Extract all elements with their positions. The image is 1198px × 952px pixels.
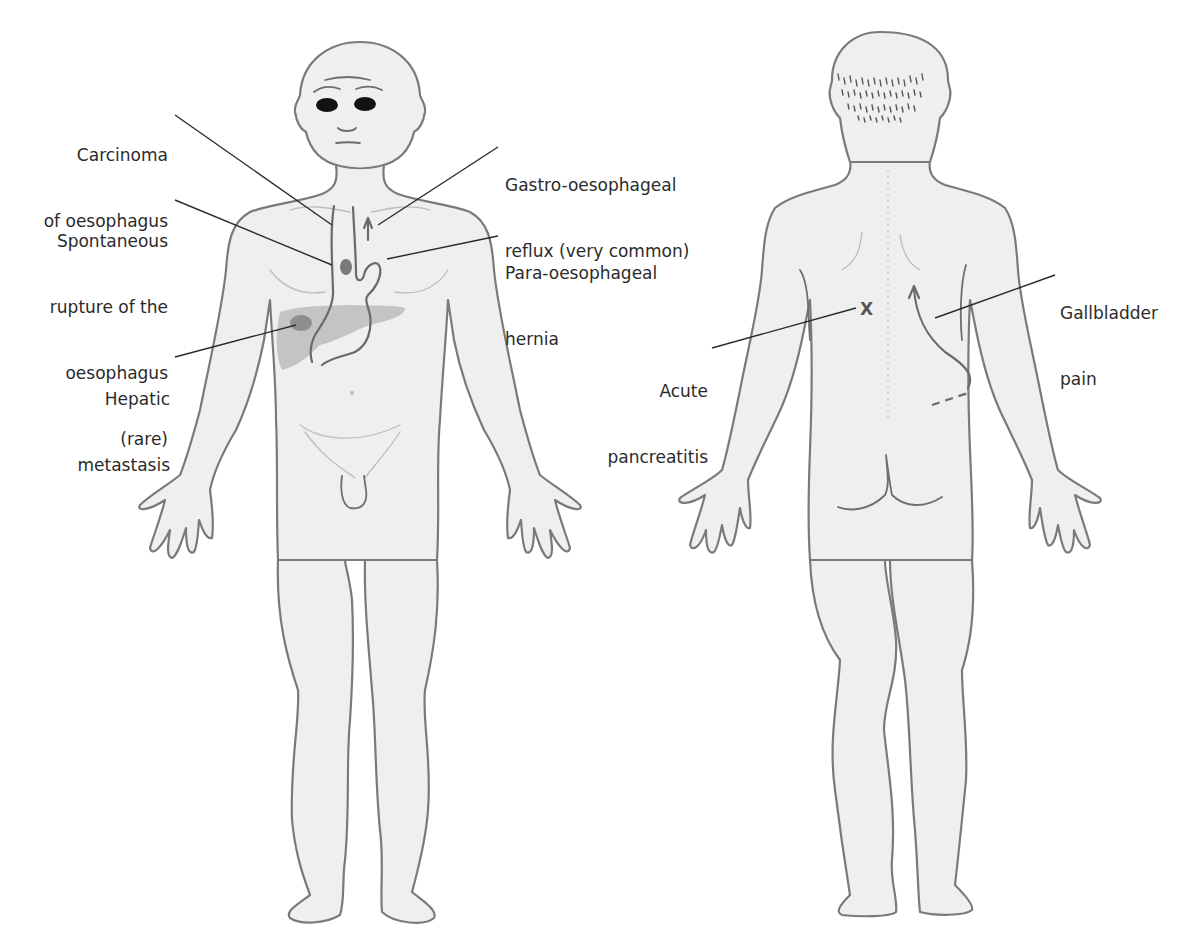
label-pancreatitis: Acute pancreatitis — [590, 336, 708, 490]
label-rupture-line2: rupture of the — [20, 296, 168, 318]
front-right-eye-icon — [354, 97, 376, 111]
pancreatitis-x-marker: X — [860, 299, 873, 319]
label-gallbladder-line2: pain — [1060, 368, 1158, 390]
label-gallbladder-line1: Gallbladder — [1060, 302, 1158, 324]
label-hepatic-line1: Hepatic — [20, 388, 170, 410]
hepatic-metastasis-spot — [290, 315, 312, 331]
back-figure: X — [679, 32, 1100, 916]
label-gallbladder: Gallbladder pain — [1060, 258, 1158, 412]
front-right-leg — [365, 560, 438, 923]
back-right-leg — [890, 560, 973, 915]
back-torso — [679, 160, 1100, 560]
label-pancreatitis-line1: Acute — [590, 380, 708, 402]
front-navel — [350, 391, 354, 395]
front-mouth — [336, 142, 360, 143]
back-head — [829, 32, 950, 162]
front-left-eye-icon — [316, 98, 338, 112]
front-left-leg — [278, 560, 353, 923]
label-reflux-line1: Gastro-oesophageal — [505, 174, 689, 196]
label-hernia-line1: Para-oesophageal — [505, 262, 657, 284]
label-hepatic-line2: metastasis — [20, 454, 170, 476]
back-left-leg — [810, 560, 896, 916]
label-rupture-line1: Spontaneous — [20, 230, 168, 252]
label-carcinoma-line1: Carcinoma — [20, 144, 168, 166]
rupture-spot — [340, 259, 352, 275]
label-pancreatitis-line2: pancreatitis — [590, 446, 708, 468]
label-hepatic: Hepatic metastasis — [20, 344, 170, 498]
